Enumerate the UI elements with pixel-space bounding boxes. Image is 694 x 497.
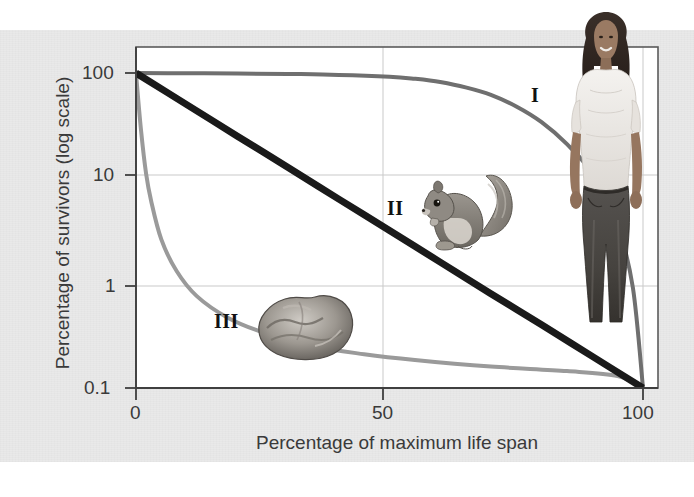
x-axis-label: Percentage of maximum life span <box>136 432 658 454</box>
survivorship-curve-figure: I II III 100 10 1 0.1 0 50 100 Percentag… <box>0 0 694 497</box>
y-tick-label-1: 1 <box>105 275 116 297</box>
x-tick-label-100: 100 <box>622 402 654 424</box>
x-tick-label-50: 50 <box>372 402 393 424</box>
y-axis-label: Percentage of survivors (log scale) <box>52 68 74 378</box>
oyster-image <box>253 288 357 364</box>
y-tick-label-0-1: 0.1 <box>84 377 110 399</box>
squirrel-image <box>418 162 518 258</box>
y-tick-label-10: 10 <box>93 164 114 186</box>
human-figure-image <box>560 10 652 332</box>
y-axis-ticks <box>125 73 136 388</box>
y-tick-label-100: 100 <box>82 62 114 84</box>
curve-label-type-i: I <box>531 84 539 107</box>
x-tick-label-0: 0 <box>130 402 141 424</box>
curve-label-type-ii: II <box>387 197 404 220</box>
x-axis-ticks <box>136 388 643 400</box>
curve-label-type-iii: III <box>214 310 239 333</box>
